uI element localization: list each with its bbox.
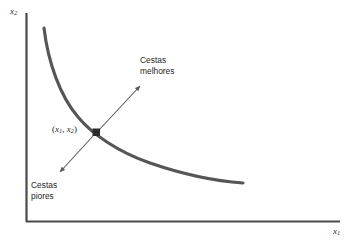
bundle-point-label: (x1, x2)	[52, 124, 77, 134]
worse-bundles-label-line1: Cestas	[31, 180, 57, 191]
y-axis-label: x2	[10, 6, 17, 16]
better-bundles-label-line2: melhores	[140, 66, 174, 77]
worse-bundles-arrow	[60, 136, 93, 172]
indifference-curve	[44, 28, 243, 183]
worse-bundles-label-line2: piores	[31, 191, 57, 202]
indifference-curve-figure: x2 x1 (x1, x2) Cestas melhores Cestas pi…	[0, 0, 354, 247]
y-axis-label-subscript: 2	[14, 9, 17, 16]
worse-bundles-label: Cestas piores	[31, 180, 57, 202]
x-axis-label-subscript: 1	[337, 229, 340, 236]
paren-close: )	[74, 124, 77, 134]
bundle-point-marker	[93, 129, 101, 137]
better-bundles-arrow	[99, 86, 140, 130]
better-bundles-label-line1: Cestas	[140, 55, 174, 66]
x-axis-label: x1	[333, 226, 340, 236]
better-bundles-label: Cestas melhores	[140, 55, 174, 77]
